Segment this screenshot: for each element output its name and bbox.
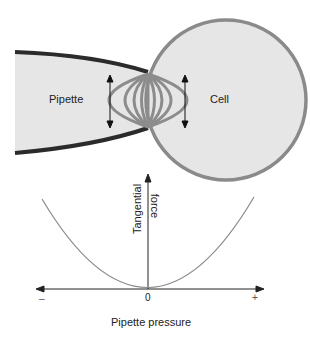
x-axis-label: Pipette pressure xyxy=(111,316,191,328)
tick-zero: 0 xyxy=(145,292,151,303)
cell-label: Cell xyxy=(210,93,229,105)
tick-plus: + xyxy=(252,292,258,303)
y-axis-label-line2: force xyxy=(149,194,161,218)
pipette-label: Pipette xyxy=(49,93,83,105)
y-axis xyxy=(145,174,151,289)
tick-minus: – xyxy=(39,293,45,304)
y-axis-label-line1: Tangential xyxy=(131,184,143,234)
diagram-canvas xyxy=(0,0,310,343)
